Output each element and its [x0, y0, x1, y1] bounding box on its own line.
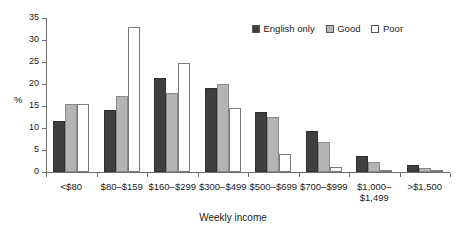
y-tick: 25	[42, 62, 46, 63]
bar	[330, 167, 342, 172]
bar	[431, 170, 443, 172]
bar	[65, 104, 77, 172]
x-tick	[400, 173, 401, 177]
bar	[380, 170, 392, 172]
y-axis-title: %	[14, 94, 22, 105]
bar-group	[407, 165, 443, 172]
bar	[229, 108, 241, 172]
bar-group	[255, 112, 291, 172]
y-tick: 20	[42, 84, 46, 85]
y-tick-label: 15	[29, 100, 39, 110]
x-category-label: $500–$699	[248, 182, 299, 193]
bar	[178, 63, 190, 172]
bar-group	[154, 63, 190, 172]
bar	[306, 131, 318, 172]
x-tick	[46, 173, 47, 177]
bar	[217, 84, 229, 172]
y-tick: 5	[42, 150, 46, 151]
bar-group	[53, 104, 89, 172]
bar	[318, 142, 330, 172]
bar-group	[104, 27, 140, 172]
bar-group	[306, 131, 342, 172]
bar	[407, 165, 419, 172]
y-tick: 30	[42, 40, 46, 41]
bar	[77, 104, 89, 172]
bar	[205, 88, 217, 172]
x-category-label: >$1,500	[400, 182, 451, 193]
x-tick	[299, 173, 300, 177]
y-tick-label: 0	[34, 166, 39, 176]
y-tick-label: 10	[29, 122, 39, 132]
bar	[356, 156, 368, 172]
x-category-label: $1,000– $1,499	[349, 182, 400, 203]
plot-area: 05101520253035	[46, 18, 450, 173]
y-tick-label: 30	[29, 34, 39, 44]
bar	[128, 27, 140, 172]
y-tick-label: 5	[34, 144, 39, 154]
x-tick	[147, 173, 148, 177]
y-tick-label: 35	[29, 12, 39, 22]
bar	[53, 121, 65, 172]
x-tick	[349, 173, 350, 177]
x-tick	[450, 173, 451, 177]
bar-chart: English only Good Poor % 05101520253035 …	[0, 0, 466, 239]
bar	[279, 154, 291, 172]
y-tick: 35	[42, 18, 46, 19]
bar	[419, 168, 431, 172]
y-tick-label: 20	[29, 78, 39, 88]
y-tick-label: 25	[29, 56, 39, 66]
bar	[116, 96, 128, 172]
y-tick: 10	[42, 128, 46, 129]
y-tick: 15	[42, 106, 46, 107]
x-tick	[248, 173, 249, 177]
y-axis-line	[46, 18, 47, 173]
bar	[267, 117, 279, 172]
bar	[104, 110, 116, 172]
bar	[154, 78, 166, 172]
bar	[255, 112, 267, 172]
x-category-label: $160–$299	[147, 182, 198, 193]
x-tick	[198, 173, 199, 177]
x-tick	[97, 173, 98, 177]
x-category-label: $300–$499	[198, 182, 249, 193]
bar	[166, 93, 178, 172]
x-category-label: $80–$159	[97, 182, 148, 193]
bar-group	[205, 84, 241, 172]
x-category-label: <$80	[46, 182, 97, 193]
x-category-label: $700–$999	[299, 182, 350, 193]
x-axis-title: Weekly income	[0, 212, 466, 223]
bar-group	[356, 156, 392, 172]
bar	[368, 162, 380, 172]
